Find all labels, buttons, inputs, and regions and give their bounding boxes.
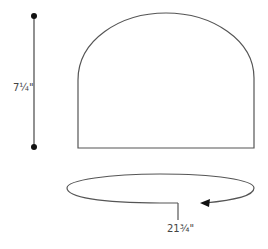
circumference-ellipse <box>67 174 254 203</box>
top-dot-icon <box>31 13 37 19</box>
arrowhead-icon <box>200 199 210 207</box>
bottom-dot-icon <box>31 144 37 150</box>
circumference-dimension: 21¾" <box>67 174 254 234</box>
hat-outline <box>78 13 254 148</box>
hat-schematic: 7¼" 21¾" <box>0 0 268 249</box>
circumference-label: 21¾" <box>167 223 194 234</box>
height-label: 7¼" <box>13 82 34 93</box>
height-dimension: 7¼" <box>13 13 37 150</box>
